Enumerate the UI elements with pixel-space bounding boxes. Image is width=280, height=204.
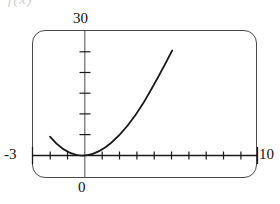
y-axis-max-label: 30 xyxy=(73,11,88,26)
plot-canvas xyxy=(0,0,280,204)
origin-label: 0 xyxy=(78,180,86,195)
x-axis-min-label: -3 xyxy=(4,147,17,162)
x-axis-max-label: 10 xyxy=(259,147,274,162)
curve-path xyxy=(50,51,172,156)
figure-graph: f(x) xyxy=(0,0,280,204)
